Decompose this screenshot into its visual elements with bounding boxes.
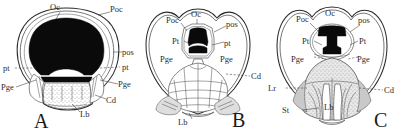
label-pge-left: Pge <box>160 54 173 64</box>
label-cd: Cd <box>384 85 395 95</box>
label-pge-left: Pge <box>1 82 14 92</box>
label-oc: Oc <box>191 9 201 19</box>
panel-letter-c: C <box>374 109 387 131</box>
label-pge-right: Pge <box>357 54 370 64</box>
panel-c: Poc Oc pos Pt Pt Pge Pge Lr Cd St Lb C <box>262 0 402 132</box>
anatomical-figure-plate: Oc Poc pos pt pt Pge Pge Cd Lb A <box>0 0 402 132</box>
panel-letter-a: A <box>34 110 49 132</box>
label-lb: Lb <box>80 109 89 119</box>
label-pt-right: pt <box>224 38 231 48</box>
label-poc: Poc <box>166 15 179 25</box>
label-poc: Poc <box>296 14 309 24</box>
label-pos: pos <box>358 15 370 25</box>
label-poc: Poc <box>110 4 123 14</box>
panel-c-drawing: Poc Oc pos Pt Pt Pge Pge Lr Cd St Lb C <box>262 0 402 132</box>
label-lb: Lb <box>324 102 333 112</box>
panel-b-drawing: Poc Oc pos Pt pt Pge Pge Cd Lb B <box>134 0 262 132</box>
label-cd: Cd <box>251 71 262 81</box>
label-pt-left: Pt <box>172 36 180 46</box>
panel-a-drawing: Oc Poc pos pt pt Pge Pge Cd Lb A <box>0 0 134 132</box>
label-pos: pos <box>122 47 134 57</box>
label-cd: Cd <box>106 95 117 105</box>
label-pge-right: Pge <box>220 54 233 64</box>
label-pge-right: Pge <box>118 79 131 89</box>
label-pt-left: Pt <box>302 36 310 46</box>
panel-b: Poc Oc pos Pt pt Pge Pge Cd Lb B <box>134 0 262 132</box>
label-pge-left: Pge <box>291 54 304 64</box>
label-lb: Lb <box>178 117 187 127</box>
label-oc: Oc <box>50 2 60 12</box>
panel-letter-b: B <box>232 109 245 131</box>
label-lr: Lr <box>268 83 276 93</box>
label-pt-right: Pt <box>359 36 367 46</box>
label-pos: pos <box>226 19 238 29</box>
label-oc: Oc <box>325 8 335 18</box>
label-pt-right: pt <box>122 62 129 72</box>
panel-a: Oc Poc pos pt pt Pge Pge Cd Lb A <box>0 0 134 132</box>
label-st: St <box>282 105 290 115</box>
label-pt-left: pt <box>3 63 10 73</box>
